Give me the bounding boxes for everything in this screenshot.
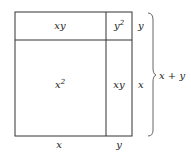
region-top-right-exponent: 2 xyxy=(119,19,125,27)
side-label-right-top: y xyxy=(137,20,144,31)
side-label-bottom-left: x xyxy=(56,139,62,150)
brace-label: x + y xyxy=(159,70,185,81)
area-model-diagram: xy y2 x2 xy y x x y x + y xyxy=(0,0,191,154)
region-bottom-left-label: x2 xyxy=(55,78,66,90)
curly-brace xyxy=(148,13,156,136)
side-label-bottom-right: y xyxy=(115,139,122,150)
region-top-left-label: xy xyxy=(54,20,66,31)
region-bottom-right-label: xy xyxy=(113,79,125,90)
region-bottom-left-exponent: 2 xyxy=(60,78,66,86)
region-top-right-label: y2 xyxy=(113,19,125,31)
side-label-right-bottom: x xyxy=(138,79,144,90)
